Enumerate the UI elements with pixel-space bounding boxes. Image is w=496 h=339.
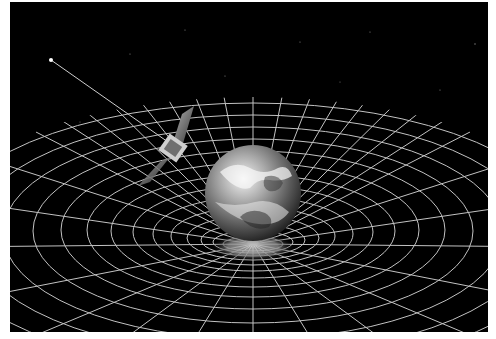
scene bbox=[10, 2, 488, 332]
starfield bbox=[49, 29, 475, 122]
guide-star-icon bbox=[49, 58, 53, 62]
beam bbox=[51, 60, 168, 142]
space-illustration bbox=[10, 2, 488, 332]
earth bbox=[205, 145, 301, 241]
satellite bbox=[138, 106, 194, 186]
